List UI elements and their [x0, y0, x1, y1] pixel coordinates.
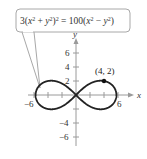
lemniscate-plot: 3(x2 + y2)2 = 100(x2 − y2) x y (4, 2) −6…: [0, 0, 147, 159]
y-tick-label-2: 2: [65, 76, 70, 86]
point-label: (4, 2): [95, 66, 115, 76]
x-tick-label-6: 6: [117, 99, 122, 109]
y-tick-label-neg4: −4: [59, 118, 69, 128]
equation-callout: 3(x2 + y2)2 = 100(x2 − y2): [16, 9, 130, 88]
y-tick-label-neg6: −6: [59, 132, 69, 142]
x-axis-label: x: [136, 90, 141, 100]
x-axis-arrow-icon: [128, 93, 134, 98]
y-axis-label: y: [72, 29, 77, 39]
x-axis: [28, 92, 134, 98]
y-tick-label-6: 6: [65, 48, 70, 58]
x-tick-label-neg6: −6: [24, 99, 34, 109]
y-tick-label-4: 4: [65, 62, 70, 72]
point-marker: [102, 79, 106, 83]
